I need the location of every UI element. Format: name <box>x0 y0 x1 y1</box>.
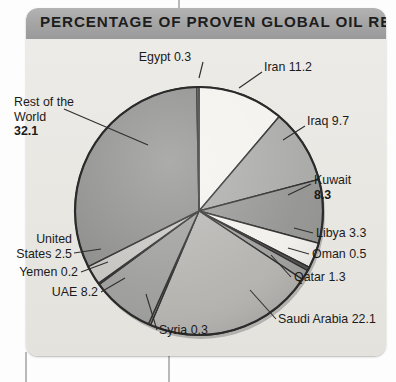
pie-svg <box>73 85 325 337</box>
label-yemen: Yemen 0.2 <box>4 265 78 280</box>
label-row-line2: World <box>14 110 46 124</box>
chart-title: PERCENTAGE OF PROVEN GLOBAL OIL RESERVES <box>40 13 386 30</box>
label-oman: Oman 0.5 <box>312 247 366 262</box>
label-egypt: Egypt 0.3 <box>122 50 208 65</box>
page-rule-bottom <box>168 352 170 382</box>
label-kuwait-name: Kuwait <box>314 173 351 187</box>
label-row-line1: Rest of the <box>14 95 74 109</box>
label-iran: Iran 11.2 <box>264 60 312 75</box>
label-kuwait: Kuwait 8.3 <box>314 173 351 202</box>
label-rest-of-world: Rest of the World 32.1 <box>14 95 74 139</box>
label-row-value: 32.1 <box>14 124 38 138</box>
label-uae: UAE 8.2 <box>10 285 98 300</box>
label-us-line2: States 2.5 <box>16 247 72 261</box>
label-qatar: Qatar 1.3 <box>294 270 346 285</box>
label-kuwait-value: 8.3 <box>314 188 331 202</box>
label-iraq: Iraq 9.7 <box>307 114 349 129</box>
pie-chart <box>73 85 325 337</box>
label-united-states: United States 2.5 <box>4 232 72 261</box>
label-us-line1: United <box>36 232 72 246</box>
pie-gloss-overlay <box>75 87 323 335</box>
label-saudi-arabia: Saudi Arabia 22.1 <box>278 312 376 327</box>
page-rule-left <box>25 352 27 382</box>
label-libya: Libya 3.3 <box>316 226 366 241</box>
label-syria: Syria 0.3 <box>159 323 208 338</box>
screenshot-root: PERCENTAGE OF PROVEN GLOBAL OIL RESERVES <box>0 0 396 382</box>
